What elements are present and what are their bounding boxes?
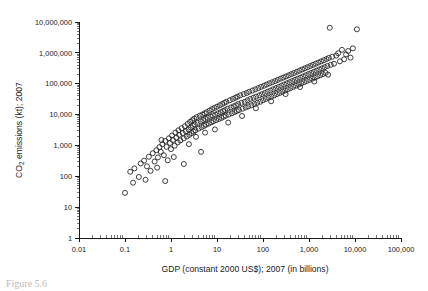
x-tick-label: 0.1 [120, 245, 130, 254]
y-tick-label: 1 [68, 234, 72, 243]
x-tick-label: 1,000 [300, 245, 319, 254]
x-axis-title: GDP (constant 2000 US$); 2007 (in billio… [161, 264, 328, 274]
figure-caption: Figure 5.6 [6, 279, 126, 289]
scatter-plot: 1101001,00010,000100,0001,000,00010,000,… [0, 0, 428, 291]
x-tick-label: 100,000 [388, 245, 415, 254]
x-tick-label: 10,000 [344, 245, 367, 254]
y-tick-label: 1,000,000 [39, 49, 72, 58]
y-tick-label: 10,000 [49, 110, 72, 119]
y-tick-label: 1,000 [54, 141, 73, 150]
figure-container: 1101001,00010,000100,0001,000,00010,000,… [0, 0, 428, 291]
y-tick-label: 10 [64, 203, 72, 212]
x-tick-label: 100 [257, 245, 269, 254]
x-tick-label: 10 [213, 245, 221, 254]
x-tick-label: 1 [169, 245, 173, 254]
x-tick-label: 0.01 [72, 245, 86, 254]
y-tick-label: 100,000 [45, 79, 72, 88]
y-tick-label: 10,000,000 [35, 18, 72, 27]
y-tick-label: 100 [60, 172, 72, 181]
figure-caption-strip: Figure 5.6 [6, 279, 126, 291]
